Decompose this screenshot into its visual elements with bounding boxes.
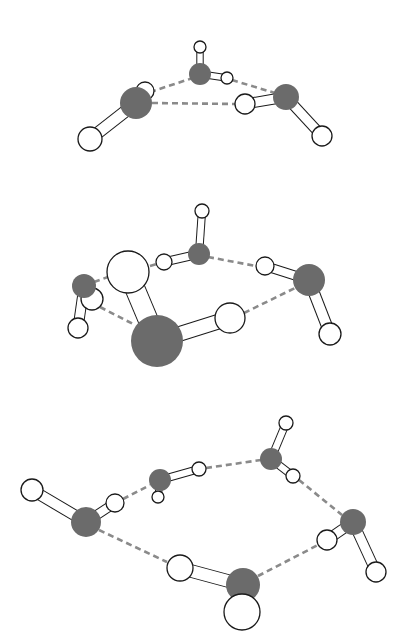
hydrogen-bond (94, 277, 108, 282)
oxygen-atom (188, 243, 210, 265)
hydrogen-atom (256, 257, 274, 275)
hydrogen-atom (195, 204, 209, 218)
hydrogen-atom (152, 491, 164, 503)
hydrogen-bond (150, 78, 193, 92)
hydrogen-atom (167, 555, 193, 581)
hydrogen-atom (312, 126, 332, 146)
hydrogen-bond (299, 480, 342, 515)
hydrogen-bond (206, 460, 261, 468)
cluster-pentamer (21, 416, 386, 630)
hydrogen-atom (366, 562, 386, 582)
hydrogen-atom (279, 416, 293, 430)
oxygen-atom (260, 448, 282, 470)
oxygen-atom (149, 469, 171, 491)
molecule-diagram (0, 0, 407, 643)
hydrogen-atom (78, 127, 102, 151)
hydrogen-bond (99, 530, 167, 562)
hydrogen-atom (317, 530, 337, 550)
oxygen-atom (72, 274, 96, 298)
hydrogen-atom (215, 303, 245, 333)
hydrogen-atom (194, 41, 206, 53)
hydrogen-bond (152, 103, 235, 104)
hydrogen-atom (224, 594, 260, 630)
hydrogen-bond (123, 485, 150, 499)
hydrogen-atom (286, 469, 300, 483)
hydrogen-atom (221, 72, 233, 84)
hydrogen-atom (106, 494, 124, 512)
hydrogen-atom (68, 318, 88, 338)
hydrogen-atom (156, 254, 172, 270)
cluster-trimer (78, 41, 332, 151)
cluster-tetramer (68, 204, 341, 367)
hydrogen-atom (235, 94, 255, 114)
hydrogen-bond (208, 257, 256, 266)
hydrogen-atom (192, 462, 206, 476)
oxygen-atom (120, 87, 152, 119)
oxygen-atom (273, 84, 299, 110)
hydrogen-bond (100, 307, 135, 325)
oxygen-atom (189, 63, 211, 85)
hydrogen-bond (244, 288, 295, 313)
water-cluster-figure (0, 0, 407, 643)
oxygen-atom (293, 264, 325, 296)
hydrogen-atom (107, 251, 149, 293)
oxygen-atom (131, 315, 183, 367)
oxygen-atom (340, 509, 366, 535)
hydrogen-atom (319, 323, 341, 345)
hydrogen-bond (232, 80, 275, 93)
hydrogen-atom (21, 479, 43, 501)
oxygen-atom (71, 507, 101, 537)
hydrogen-bond (258, 545, 318, 576)
